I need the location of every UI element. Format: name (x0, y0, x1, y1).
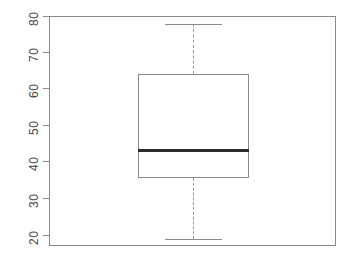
ytick-label-40: 40 (24, 155, 44, 169)
lower-whisker-line (193, 178, 194, 239)
ytick-label-80: 80 (24, 10, 44, 24)
interquartile-box (138, 74, 249, 178)
ytick-label-30: 30 (24, 192, 44, 206)
lower-whisker-cap (165, 239, 222, 240)
ytick-label-80-text: 80 (28, 6, 40, 26)
ytick-label-50-text: 50 (28, 115, 40, 135)
upper-whisker-cap (165, 24, 222, 25)
ytick-label-70: 70 (24, 46, 44, 60)
ytick-label-60-text: 60 (28, 78, 40, 98)
median-line (138, 149, 249, 152)
ytick-label-40-text: 40 (28, 151, 40, 171)
ytick-label-50: 50 (24, 119, 44, 133)
ytick-label-70-text: 70 (28, 42, 40, 62)
ytick-label-30-text: 30 (28, 188, 40, 208)
ytick-label-20-text: 20 (28, 225, 40, 245)
upper-whisker-line (193, 24, 194, 74)
boxplot-figure: 80 70 60 50 40 30 20 (0, 0, 354, 261)
ytick-label-20: 20 (24, 229, 44, 243)
ytick-label-60: 60 (24, 82, 44, 96)
